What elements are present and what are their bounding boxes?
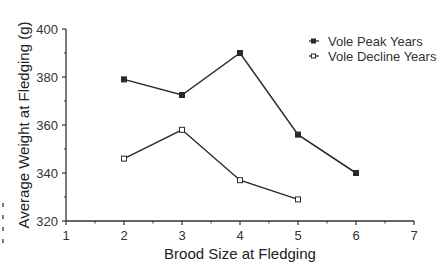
x-axis-title: Brood Size at Fledging — [164, 245, 316, 262]
open-square-marker — [122, 156, 127, 161]
data-series — [122, 51, 359, 202]
filled-square-marker — [180, 93, 185, 98]
edge-mark — [2, 203, 4, 207]
filled-square-marker — [238, 51, 243, 56]
legend-label: Vole Peak Years — [328, 34, 423, 49]
y-tick-label: 340 — [36, 166, 58, 181]
x-tick-label: 7 — [410, 228, 417, 243]
open-square-marker — [296, 197, 301, 202]
y-tick-label: 360 — [36, 118, 58, 133]
filled-square-marker — [354, 171, 359, 176]
open-square-marker — [180, 127, 185, 132]
scan-edge-marks — [2, 203, 5, 265]
y-tick-label: 380 — [36, 70, 58, 85]
line-chart: 3203403603804001234567 Vole Peak YearsVo… — [0, 0, 448, 275]
x-tick-label: 4 — [236, 228, 243, 243]
series-line — [124, 130, 298, 200]
open-square-marker — [238, 178, 243, 183]
legend: Vole Peak YearsVole Decline Years — [309, 34, 437, 64]
y-tick-label: 400 — [36, 22, 58, 37]
x-tick-label: 5 — [294, 228, 301, 243]
edge-mark — [2, 239, 4, 243]
filled-square-marker — [296, 132, 301, 137]
edge-mark — [2, 227, 4, 231]
x-tick-label: 1 — [62, 228, 69, 243]
series-line — [124, 53, 356, 173]
legend-open-square-icon — [312, 54, 316, 58]
y-axis-title: Average Weight at Fledging (g) — [15, 21, 32, 228]
y-tick-label: 320 — [36, 214, 58, 229]
x-tick-label: 6 — [352, 228, 359, 243]
filled-square-marker — [122, 77, 127, 82]
x-tick-label: 3 — [178, 228, 185, 243]
legend-filled-square-icon — [312, 39, 316, 43]
x-tick-label: 2 — [120, 228, 127, 243]
edge-mark — [2, 215, 4, 219]
legend-label: Vole Decline Years — [328, 49, 437, 64]
